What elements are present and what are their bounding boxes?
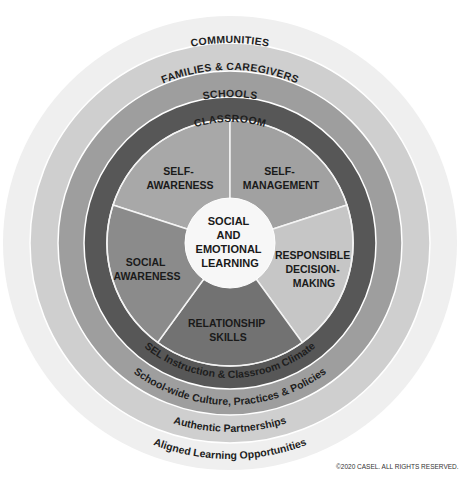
copyright-notice: ©2020 CASEL. ALL RIGHTS RESERVED. [336,463,459,470]
sel-framework-wheel: SOCIAL AND EMOTIONAL LEARNING SELF- AWAR… [0,0,467,491]
